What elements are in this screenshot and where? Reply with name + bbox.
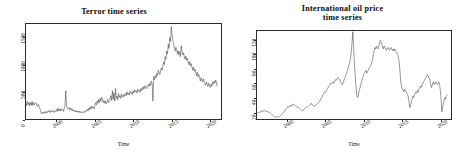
y-tick-label: 120 — [251, 38, 257, 46]
panel-terror-time-series: Terror time series 050010001500 20002005… — [0, 0, 228, 159]
series-path — [26, 27, 217, 114]
y-tick-mark — [23, 120, 25, 121]
plot-area-oil — [256, 30, 452, 120]
y-tick-label: 1500 — [20, 33, 26, 44]
x-axis-title-terror: Time — [25, 141, 222, 147]
y-tick-label: 60 — [251, 85, 257, 90]
panel-title-oil-line2: time series — [228, 13, 457, 22]
y-tick-mark — [254, 69, 256, 70]
panel-title-oil: International oil price time series — [228, 4, 457, 22]
y-tick-label: 40 — [251, 100, 257, 105]
y-tick-label: 20 — [251, 114, 257, 119]
plot-area-terror — [25, 23, 222, 120]
x-axis-title-oil: Time — [256, 141, 452, 147]
y-tick-label: 500 — [20, 91, 26, 99]
panel-title-oil-line1: International oil price — [228, 4, 457, 13]
figure-two-time-series-panels: Terror time series 050010001500 20002005… — [0, 0, 457, 159]
y-tick-label: 1000 — [20, 61, 26, 72]
y-tick-label: 80 — [251, 70, 257, 75]
y-tick-mark — [254, 113, 256, 114]
panel-oil-price-time-series: International oil price time series 2040… — [228, 0, 457, 159]
series-path — [257, 32, 447, 118]
panel-title-terror: Terror time series — [0, 7, 228, 16]
y-tick-label: 100 — [251, 53, 257, 61]
y-tick-label: 0 — [20, 124, 26, 127]
series-line-oil — [257, 31, 451, 119]
series-line-terror — [26, 24, 221, 119]
